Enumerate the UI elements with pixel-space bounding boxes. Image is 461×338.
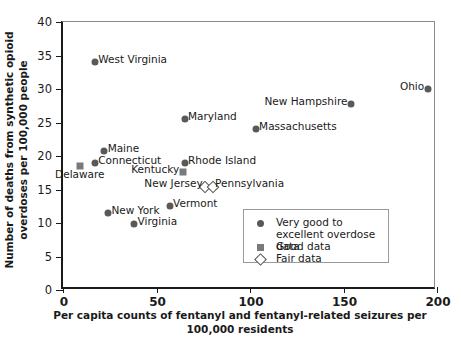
y-axis-title: Number of deaths from synthetic opioid o… (2, 0, 36, 300)
data-point-label: Delaware (55, 168, 104, 180)
y-axis-tick-label: 0 (45, 283, 52, 298)
data-point: Pennsylvania (208, 183, 217, 192)
data-point-label: Rhode Island (188, 153, 256, 165)
data-point-label: Vermont (173, 197, 217, 209)
data-point-marker (347, 100, 354, 107)
data-point-label: Massachusetts (259, 120, 337, 132)
data-point-marker (179, 169, 186, 176)
y-axis-tick: 35 (56, 56, 63, 57)
data-point: Virginia (131, 221, 138, 228)
data-point-label: Virginia (138, 215, 178, 227)
y-axis-tick: 5 (56, 257, 63, 258)
data-point-marker (91, 159, 98, 166)
y-axis-tick: 40 (56, 22, 63, 23)
legend-circle-icon (253, 217, 267, 229)
y-axis-tick: 15 (56, 190, 63, 191)
data-point: Rhode Island (181, 159, 188, 166)
data-point-marker (252, 126, 259, 133)
data-point-label: Kentucky (131, 163, 179, 175)
data-point-marker (104, 209, 111, 216)
y-axis-tick-label: 25 (37, 116, 52, 131)
x-axis-tick: 200 (437, 287, 438, 293)
legend-item-label: Fair data (276, 252, 322, 264)
y-axis-tick: 10 (56, 223, 63, 224)
data-point: Connecticut (91, 159, 98, 166)
data-point: Vermont (166, 203, 173, 210)
scatter-chart-figure: Number of deaths from synthetic opioid o… (0, 0, 461, 338)
x-axis-tick: 0 (63, 287, 64, 293)
x-axis-tick: 50 (157, 287, 158, 293)
data-point-label: New Hampshire (264, 94, 347, 106)
data-point-label: New York (111, 203, 159, 215)
data-point: Ohio (424, 86, 431, 93)
y-axis-tick-label: 40 (37, 15, 52, 30)
data-point-marker (91, 59, 98, 66)
x-axis-title: Per capita counts of fentanyl and fentan… (40, 308, 440, 336)
data-point-marker (424, 86, 431, 93)
y-axis-tick-label: 35 (37, 49, 52, 64)
y-axis-tick-label: 10 (37, 216, 52, 231)
data-point: Kentucky (179, 169, 186, 176)
y-axis-tick: 25 (56, 123, 63, 124)
chart-legend: Very good to excellent overdose dataGood… (243, 209, 389, 263)
data-point-marker (181, 116, 188, 123)
y-axis-tick-label: 30 (37, 82, 52, 97)
data-point: New York (104, 209, 111, 216)
x-axis-tick: 150 (344, 287, 345, 293)
data-point-label: Maine (108, 141, 140, 153)
y-axis-tick: 30 (56, 89, 63, 90)
y-axis-tick-label: 20 (37, 149, 52, 164)
legend-item: Fair data (253, 252, 389, 265)
y-axis-tick: 0 (56, 290, 63, 291)
data-point-label: West Virginia (98, 53, 167, 65)
data-point-marker (166, 203, 173, 210)
data-point-label: Ohio (400, 80, 424, 92)
y-axis-tick-label: 5 (45, 250, 52, 265)
legend-diamond-icon (253, 253, 267, 265)
y-axis-tick: 20 (56, 156, 63, 157)
data-point-label: New Jersey (144, 177, 202, 189)
data-point-marker (181, 159, 188, 166)
legend-item-label: Good data (276, 240, 331, 252)
data-point: New Hampshire (347, 100, 354, 107)
data-point-label: Pennsylvania (215, 177, 284, 189)
data-point-label: Maryland (188, 110, 237, 122)
data-point-marker (131, 221, 138, 228)
data-point: Massachusetts (252, 126, 259, 133)
data-point: West Virginia (91, 59, 98, 66)
x-axis-tick: 100 (250, 287, 251, 293)
data-point: Maryland (181, 116, 188, 123)
y-axis-tick-label: 15 (37, 183, 52, 198)
data-point: Delaware (76, 163, 83, 170)
